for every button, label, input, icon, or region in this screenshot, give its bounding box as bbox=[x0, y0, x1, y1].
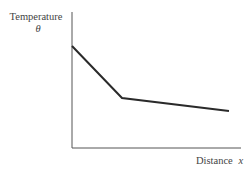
x-axis-label-word: Distance bbox=[196, 155, 233, 166]
temperature-profile-line bbox=[72, 46, 229, 111]
y-axis-label: Temperature bbox=[10, 11, 63, 22]
temperature-distance-diagram: Temperature θ Distance x bbox=[0, 0, 251, 172]
y-axis-symbol: θ bbox=[35, 23, 40, 34]
x-axis-label: Distance x bbox=[196, 155, 243, 166]
x-axis-label-symbol: x bbox=[237, 155, 243, 166]
